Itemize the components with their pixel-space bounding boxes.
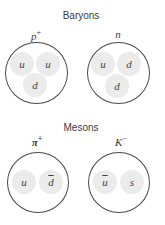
kaon-charge: − — [122, 134, 127, 143]
baryons-heading: Baryons — [0, 10, 162, 21]
neutron-quark-3: d — [105, 74, 129, 98]
proton-charge: + — [36, 28, 41, 37]
proton-label: p+ — [16, 28, 56, 42]
pion-label: π+ — [17, 134, 57, 148]
proton-quark-2: u — [36, 52, 60, 76]
neutron-quark-2: d — [117, 52, 141, 76]
proton-quark-3: d — [23, 73, 47, 97]
neutron-symbol: n — [115, 28, 121, 40]
pion-quark-2: d — [39, 170, 63, 194]
kaon-label: K− — [101, 134, 141, 148]
kaon-quark-1: u — [93, 170, 117, 194]
proton-quark-1: u — [10, 52, 34, 76]
kaon-quark-2: s — [120, 170, 144, 194]
pion-quark-1: u — [12, 170, 36, 194]
neutron-quark-1: u — [91, 52, 115, 76]
pion-charge: + — [38, 134, 43, 143]
mesons-heading: Mesons — [0, 122, 162, 133]
neutron-label: n — [98, 28, 138, 40]
